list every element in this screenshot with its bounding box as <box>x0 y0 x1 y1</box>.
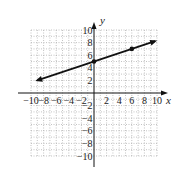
y-tick-label: −6 <box>82 125 93 136</box>
x-tick-label: −6 <box>51 95 62 106</box>
x-tick-label: 2 <box>104 95 109 106</box>
x-tick-label: 8 <box>142 95 147 106</box>
x-tick-label: −4 <box>63 95 74 106</box>
y-axis-label: y <box>99 14 105 26</box>
data-series <box>35 40 157 82</box>
y-tick-label: 10 <box>83 25 93 36</box>
x-axis-label: x <box>165 94 171 106</box>
y-tick-label: −4 <box>82 113 93 124</box>
data-line <box>37 41 155 80</box>
y-tick-label: −10 <box>77 151 93 162</box>
data-point <box>130 47 135 52</box>
y-tick-label: 8 <box>88 37 93 48</box>
line-arrow-right-icon <box>150 40 158 46</box>
y-tick-label: 6 <box>88 50 93 61</box>
line-arrow-left-icon <box>35 76 43 82</box>
x-tick-label: 10 <box>152 95 162 106</box>
data-point <box>92 59 97 64</box>
y-tick-label: −2 <box>82 100 93 111</box>
x-tick-label: −10 <box>23 95 39 106</box>
x-tick-label: −8 <box>38 95 49 106</box>
y-tick-label: −8 <box>82 138 93 149</box>
coordinate-plane: −10−8−6−4−2246810−10−8−6−4−2246810 x y <box>0 0 180 170</box>
x-tick-label: 4 <box>117 95 122 106</box>
y-tick-label: 2 <box>88 75 93 86</box>
x-tick-label: 6 <box>129 95 134 106</box>
